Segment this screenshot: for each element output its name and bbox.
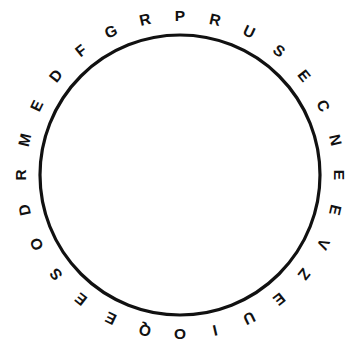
ring-letter: I	[202, 317, 228, 343]
ring-letter: S	[40, 259, 71, 290]
ring-letter: S	[264, 35, 295, 66]
ring-letter: E	[289, 60, 320, 91]
ring-letter: U	[234, 17, 263, 46]
ring-letter: V	[309, 229, 338, 258]
ring-letter: R	[10, 164, 32, 186]
ring-letter: R	[131, 7, 157, 33]
ring-letter: P	[169, 5, 191, 27]
ring-letter: C	[309, 91, 338, 120]
ring-letter: F	[65, 35, 96, 66]
ring-letter: R	[202, 7, 228, 33]
ring-letter: D	[12, 197, 38, 223]
ring-letter: E	[322, 197, 348, 223]
letter-circle-figure: PRUSECNEEVZEUIOQEESODRMEDFGR	[0, 0, 358, 351]
ring-letter: M	[12, 126, 38, 152]
ring-letter: Q	[131, 317, 157, 343]
ring-letter: N	[322, 126, 348, 152]
ring-letter: O	[169, 323, 191, 345]
ring-letter-layer: PRUSECNEEVZEUIOQEESODRMEDFGR	[0, 0, 358, 351]
ring-letter: E	[22, 91, 51, 120]
ring-letter: G	[96, 17, 125, 46]
ring-letter: U	[234, 304, 263, 333]
ring-letter: E	[264, 284, 295, 315]
ring-letter: E	[96, 304, 125, 333]
ring-letter: E	[328, 164, 350, 186]
ring-letter: E	[65, 284, 96, 315]
ring-letter: O	[22, 229, 51, 258]
ring-letter: Z	[289, 259, 320, 290]
ring-letter: D	[40, 60, 71, 91]
